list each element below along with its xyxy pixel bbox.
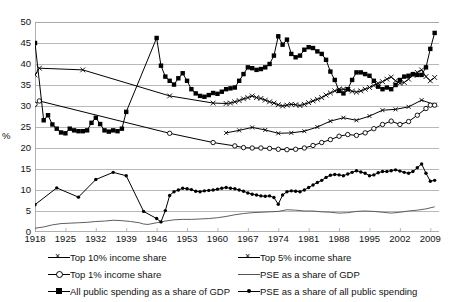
x-tick-label: 1960 xyxy=(207,234,228,244)
plot-svg xyxy=(35,22,439,232)
x-tick-label: 1974 xyxy=(268,234,289,244)
legend-marker-icon xyxy=(238,286,260,297)
y-tick-label: 40 xyxy=(20,59,31,69)
x-tick-label: 1918 xyxy=(24,234,45,244)
square-marker-icon xyxy=(56,288,62,294)
y-tick-label: 5 xyxy=(26,206,31,216)
legend-item[interactable]: PSE as a share of GDP xyxy=(238,266,417,283)
legend-item-label: All public spending as a share of GDP xyxy=(70,286,230,297)
chart-legend: ×Top 10% income shareTop 1% income share… xyxy=(0,249,450,301)
x-tick-label: 1939 xyxy=(116,234,137,244)
legend-marker-icon xyxy=(48,286,70,297)
legend-item[interactable]: Top 1% income share xyxy=(48,266,230,283)
chart-figure: 50454035302520151050 % 19181925193219391… xyxy=(0,0,450,302)
x-tick-label: 1988 xyxy=(329,234,350,244)
y-tick-label: 25 xyxy=(20,122,31,132)
circle-marker-icon xyxy=(56,271,63,278)
x-tick-label: 1925 xyxy=(55,234,76,244)
legend-marker-icon xyxy=(48,269,70,280)
y-tick-label: 30 xyxy=(20,101,31,111)
x-tick-label: 1967 xyxy=(237,234,258,244)
y-tick-label: 10 xyxy=(20,185,31,195)
legend-item-label: Top 5% income share xyxy=(260,252,351,263)
legend-item[interactable]: ×Top 10% income share xyxy=(48,249,230,266)
legend-item-label: PSE as a share of all public spending xyxy=(260,286,417,297)
x-tick-label: 1995 xyxy=(359,234,380,244)
series-3 xyxy=(35,31,437,136)
legend-item-label: Top 1% income share xyxy=(70,269,161,280)
x-tick-label: 1981 xyxy=(298,234,319,244)
y-tick-label: 35 xyxy=(20,80,31,90)
x-marker-icon: × xyxy=(245,253,250,260)
y-tick-label: 20 xyxy=(20,143,31,153)
legend-item-label: Top 10% income share xyxy=(70,252,167,263)
legend-marker-icon: × xyxy=(238,252,260,263)
legend-column-left: ×Top 10% income shareTop 1% income share… xyxy=(48,249,230,300)
x-tick-label: 2009 xyxy=(420,234,441,244)
x-tick-label: 1953 xyxy=(176,234,197,244)
y-axis: 50454035302520151050 xyxy=(0,0,31,254)
x-tick-label: 1932 xyxy=(85,234,106,244)
dot-marker-icon xyxy=(247,289,251,293)
y-tick-label: 15 xyxy=(20,164,31,174)
x-tick-label: 1946 xyxy=(146,234,167,244)
legend-column-right: ×Top 5% income sharePSE as a share of GD… xyxy=(238,249,417,300)
legend-item-label: PSE as a share of GDP xyxy=(260,269,360,280)
legend-item[interactable]: All public spending as a share of GDP xyxy=(48,283,230,300)
x-tick-label: 2002 xyxy=(389,234,410,244)
series-4 xyxy=(35,207,435,228)
line-icon xyxy=(238,274,260,275)
legend-marker-icon: × xyxy=(48,252,70,263)
legend-item[interactable]: PSE as a share of all public spending xyxy=(238,283,417,300)
legend-line-icon xyxy=(238,269,260,280)
x-axis: 1918192519321939194619531960196719741981… xyxy=(35,234,439,250)
y-tick-label: 45 xyxy=(20,38,31,48)
series-1 xyxy=(224,98,437,135)
plot-area xyxy=(35,22,439,232)
y-tick-label: 50 xyxy=(20,17,31,27)
legend-item[interactable]: ×Top 5% income share xyxy=(238,249,417,266)
x-marker-icon: × xyxy=(55,253,60,260)
y-axis-title: % xyxy=(2,130,10,141)
